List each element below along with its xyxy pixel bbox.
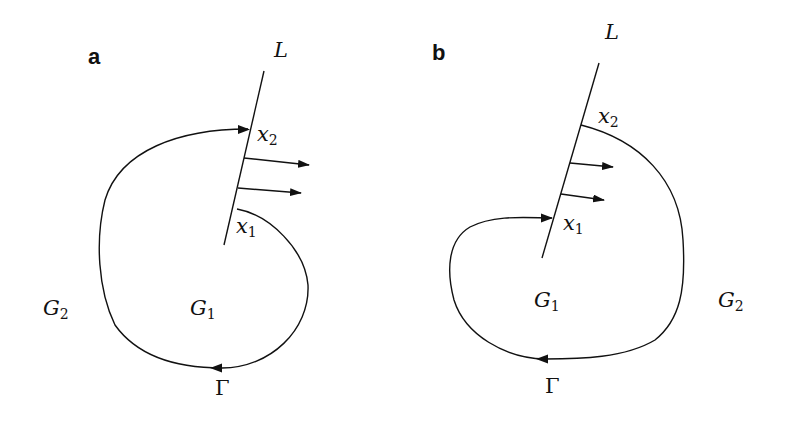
region-g1-base-b: G xyxy=(534,288,551,312)
point-x2-base-b: x xyxy=(598,104,610,128)
contour-label-a: Γ xyxy=(215,378,230,399)
point-x2-sub-b: 2 xyxy=(610,114,619,130)
arrowhead-x2-a xyxy=(238,125,250,134)
point-x2-label-b: x2 xyxy=(598,106,619,129)
normal-arrow-a-1 xyxy=(244,158,309,165)
region-g2-base-a: G xyxy=(43,296,60,320)
point-x1-sub-b: 1 xyxy=(575,221,584,237)
region-g1-base-a: G xyxy=(190,296,207,320)
normal-arrow-b-2 xyxy=(561,194,604,200)
region-g2-sub-b: 2 xyxy=(735,298,744,314)
panel-letter-a: a xyxy=(88,44,100,70)
point-x1-base-b: x xyxy=(563,211,575,235)
point-x2-label-a: x2 xyxy=(257,124,278,147)
region-g1-sub-a: 1 xyxy=(207,306,216,322)
line-label-a: L xyxy=(274,40,288,61)
point-x1-label-a: x1 xyxy=(236,216,257,239)
panel-a xyxy=(99,71,309,373)
normal-arrow-b-1 xyxy=(570,163,613,167)
point-x1-label-b: x1 xyxy=(563,213,584,236)
contour-label-b: Γ xyxy=(545,376,560,397)
region-g2-label-a: G2 xyxy=(43,298,69,321)
arrowhead-gamma-b xyxy=(536,355,548,364)
arrowhead-gamma-a xyxy=(210,364,222,373)
panel-letter-b: b xyxy=(432,40,445,66)
point-x1-sub-a: 1 xyxy=(248,224,257,240)
point-x2-sub-a: 2 xyxy=(269,132,278,148)
point-x1-base-a: x xyxy=(236,214,248,238)
region-g1-sub-b: 1 xyxy=(551,298,560,314)
diagram-canvas xyxy=(0,0,792,424)
contour-gamma-a-lower xyxy=(222,209,308,368)
region-g2-base-b: G xyxy=(718,288,735,312)
contour-gamma-a-upper xyxy=(99,129,248,368)
line-label-b: L xyxy=(605,22,619,43)
region-g1-label-a: G1 xyxy=(190,298,216,321)
region-g2-label-b: G2 xyxy=(718,290,744,313)
region-g1-label-b: G1 xyxy=(534,290,560,313)
point-x2-base-a: x xyxy=(257,122,269,146)
normal-arrow-a-2 xyxy=(238,188,301,193)
arrowhead-x1-b xyxy=(541,214,553,223)
contour-gamma-b-right xyxy=(545,125,684,359)
region-g2-sub-a: 2 xyxy=(60,306,69,322)
